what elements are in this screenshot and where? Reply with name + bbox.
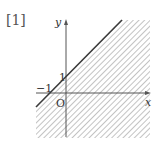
y-axis-arrow-icon [64, 19, 68, 25]
x-axis-label: x [145, 97, 151, 108]
graph-canvas [0, 0, 159, 147]
inequality-graph: [1] y x O 1 −1 [0, 0, 159, 147]
y-intercept-label: 1 [59, 72, 66, 83]
shaded-region [36, 20, 150, 138]
y-axis-label: y [55, 17, 61, 28]
x-intercept-label: −1 [36, 83, 52, 94]
origin-label: O [56, 98, 65, 109]
